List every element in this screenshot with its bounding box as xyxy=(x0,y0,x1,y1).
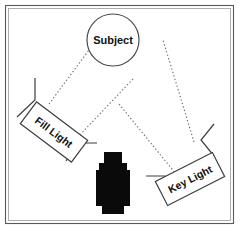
camera-main-body xyxy=(96,170,130,206)
lighting-diagram-root: Subject Fill Light Key Light xyxy=(0,0,240,230)
lighting-diagram-canvas: Subject Fill Light Key Light xyxy=(0,0,240,230)
camera-base xyxy=(102,206,124,214)
camera-shoulder xyxy=(99,163,127,170)
subject-label: Subject xyxy=(93,34,133,46)
subject-node[interactable]: Subject xyxy=(87,14,139,66)
camera-lens-icon xyxy=(104,152,122,163)
